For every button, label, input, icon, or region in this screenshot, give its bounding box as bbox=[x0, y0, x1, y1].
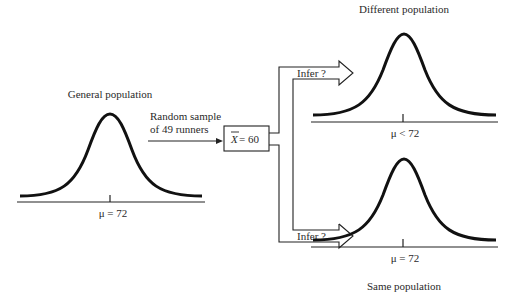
upper-infer-arrow bbox=[269, 61, 353, 230]
sample-arrowhead-icon bbox=[216, 138, 223, 144]
different-mean-label: μ < 72 bbox=[391, 127, 420, 139]
different-population-title: Different population bbox=[359, 3, 449, 15]
same-mean-label: μ = 72 bbox=[391, 252, 420, 264]
different-population-curve bbox=[313, 34, 496, 115]
sample-mean-symbol: X bbox=[230, 133, 239, 145]
general-mean-label: μ = 72 bbox=[99, 207, 128, 219]
sample-mean-value: = 60 bbox=[239, 133, 259, 145]
general-population-title: General population bbox=[68, 88, 153, 100]
upper-infer-label: Infer ? bbox=[297, 67, 326, 79]
sample-label-line1: Random sample bbox=[150, 110, 221, 122]
same-population-title: Same population bbox=[367, 280, 442, 292]
inference-diagram: General population μ = 72 Random sample … bbox=[0, 0, 511, 297]
same-population-curve bbox=[313, 159, 496, 240]
sample-label-line2: of 49 runners bbox=[150, 123, 209, 135]
